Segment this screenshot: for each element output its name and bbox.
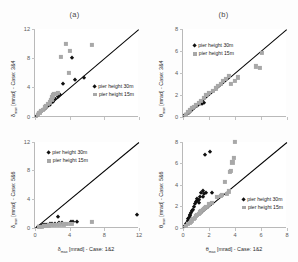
data-point-pier15: [220, 193, 224, 197]
data-point-pier15: [236, 75, 240, 79]
legend-label-pier15: pier height 15m: [248, 205, 283, 210]
plot-a-top: 04812pier height 30mpier height 15m: [34, 29, 138, 117]
y-tick-label: 2: [164, 203, 178, 209]
plot-a-top-canvas: 04812pier height 30mpier height 15m: [35, 29, 138, 116]
x-tickmark: [235, 228, 236, 231]
y-tickmark: [180, 142, 183, 143]
diamond-marker-icon: [241, 197, 246, 202]
x-tick-label: 6: [254, 232, 268, 238]
y-tickmark: [32, 29, 35, 30]
x-tickmark: [139, 228, 140, 231]
data-point-pier15: [67, 71, 71, 75]
data-point-pier15: [90, 43, 94, 47]
x-tick-label: 2: [202, 232, 216, 238]
x-tickmark: [183, 117, 184, 120]
plot-a-bottom: 0481204812pier height 30mpier height 15m: [34, 142, 138, 228]
x-tickmark: [209, 117, 210, 120]
plot-b-bottom-ylabel: θmax [mrad] - Case: 5&6: [158, 171, 166, 228]
data-point-pier15: [226, 74, 230, 78]
data-point-pier30: [81, 76, 86, 81]
x-tickmark: [104, 117, 105, 120]
diamond-marker-icon: [192, 43, 197, 48]
figure-scatter-comparison: (a) 04812pier height 30mpier height 15m …: [0, 0, 298, 262]
square-marker-icon: [47, 159, 51, 163]
square-marker-icon: [93, 93, 97, 97]
x-tickmark: [70, 228, 71, 231]
plot-a-top-ylabel: δmax [mrad] - Case: 3&4: [10, 60, 18, 117]
x-tick-label: 0: [28, 232, 42, 238]
data-point-pier30: [209, 190, 214, 195]
data-point-pier15: [210, 201, 214, 205]
plot-b-bottom-xlabel: θmax [mrad] - Case: 1&2: [182, 246, 286, 254]
data-point-pier15: [230, 160, 234, 164]
x-tickmark: [287, 228, 288, 231]
data-point-pier15: [223, 180, 227, 184]
diamond-marker-icon: [92, 84, 97, 89]
y-tick-label: 6: [164, 160, 178, 166]
legend-item-pier15: pier height 15m: [242, 205, 283, 210]
data-point-pier15: [64, 42, 68, 46]
data-point-pier30: [204, 190, 209, 195]
y-tickmark: [180, 29, 183, 30]
y-tickmark: [180, 206, 183, 207]
plot-b-top-canvas: 02468pier height 30mpier height 15m: [183, 29, 286, 116]
legend-label-pier30: pier height 30m: [247, 197, 282, 202]
data-point-pier30: [74, 220, 79, 225]
y-tick-label: 0: [16, 114, 30, 120]
y-tick-label: 4: [16, 84, 30, 90]
y-tick-label: 6: [164, 48, 178, 54]
plot-a-bottom-ylabel: δmax [mrad] - Case: 5&6: [10, 171, 18, 228]
data-point-pier15: [229, 169, 233, 173]
x-tick-label: 12: [132, 232, 146, 238]
data-point-pier15: [260, 51, 264, 55]
y-tick-label: 8: [164, 26, 178, 32]
legend-item-pier30: pier height 30m: [242, 197, 283, 202]
plot-a-bottom-canvas: 0481204812pier height 30mpier height 15m: [35, 142, 138, 227]
x-tickmark: [261, 228, 262, 231]
y-tickmark: [32, 87, 35, 88]
data-point-pier15: [69, 222, 73, 226]
x-tick-label: 4: [63, 232, 77, 238]
y-tickmark: [180, 185, 183, 186]
y-tick-label: 0: [164, 225, 178, 231]
x-tickmark: [287, 117, 288, 120]
plot-b-bottom: 0246802468pier height 30mpier height 15m: [182, 142, 286, 228]
y-tick-label: 8: [164, 139, 178, 145]
legend: pier height 30mpier height 15m: [93, 84, 134, 100]
data-point-pier15: [258, 65, 262, 69]
panel-b-title: (b): [149, 10, 298, 19]
y-tick-label: 4: [16, 196, 30, 202]
x-tick-label: 8: [280, 232, 294, 238]
y-tick-label: 8: [16, 55, 30, 61]
square-marker-icon: [193, 52, 197, 56]
legend-item-pier30: pier height 30m: [93, 84, 134, 89]
y-tickmark: [180, 163, 183, 164]
x-tickmark: [104, 228, 105, 231]
data-point-pier15: [233, 140, 237, 144]
legend-label-pier15: pier height 15m: [199, 51, 234, 56]
legend-label-pier15: pier height 15m: [53, 158, 88, 163]
plot-a-bottom-xlabel: δmax [mrad] - Case: 1&2: [34, 246, 138, 254]
y-tick-label: 0: [16, 225, 30, 231]
x-tickmark: [35, 228, 36, 231]
data-point-pier30: [55, 215, 60, 220]
y-tickmark: [32, 58, 35, 59]
diamond-marker-icon: [46, 150, 51, 155]
y-tickmark: [180, 51, 183, 52]
legend-item-pier30: pier height 30m: [193, 43, 234, 48]
legend-item-pier15: pier height 15m: [47, 158, 88, 163]
data-point-pier15: [68, 49, 72, 53]
square-marker-icon: [242, 206, 246, 210]
y-tickmark: [32, 170, 35, 171]
y-tick-label: 0: [164, 114, 178, 120]
legend-item-pier15: pier height 15m: [93, 92, 134, 97]
y-tickmark: [180, 95, 183, 96]
y-tick-label: 2: [164, 92, 178, 98]
legend-item-pier15: pier height 15m: [193, 51, 234, 56]
y-tick-label: 12: [16, 26, 30, 32]
plot-b-top: 02468pier height 30mpier height 15m: [182, 29, 286, 117]
x-tickmark: [209, 228, 210, 231]
data-point-pier15: [254, 64, 258, 68]
x-tickmark: [139, 117, 140, 120]
y-tick-label: 8: [16, 167, 30, 173]
